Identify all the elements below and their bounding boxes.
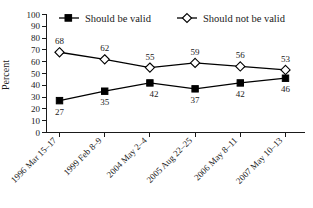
data-point-label: 46 [281,84,291,94]
y-tick-label: 70 [31,45,41,55]
chart-canvas: Percent 0 10 20 30 40 50 60 [0,0,313,208]
filled-square-icon [65,15,72,22]
data-point-label: 37 [191,95,201,105]
data-point-label: 55 [145,52,155,62]
series-data-labels-should-be-valid: 273542374246 [55,84,291,116]
series-markers-should-be-valid [56,75,288,104]
y-tick-label: 60 [31,57,41,67]
series-line-should-not-be-valid [60,52,286,70]
y-tick-label: 40 [31,80,41,90]
y-tick-label: 80 [31,33,41,43]
x-axis-label: 1996 Mar 15–17 [9,135,59,185]
data-point-marker [56,97,62,103]
series-line-should-be-valid [60,78,286,100]
data-point-marker [282,75,288,81]
data-point-label: 59 [191,47,201,57]
legend-item-should-be-valid[interactable]: Should be valid [59,13,152,24]
data-point-label: 53 [281,54,291,64]
y-tick-label: 30 [31,92,41,102]
open-diamond-icon [182,14,191,23]
data-point-marker [145,63,154,72]
data-point-label: 42 [236,89,245,99]
data-point-label: 27 [55,107,65,117]
legend-label-should-be-valid: Should be valid [85,13,152,24]
legend-item-should-not-be-valid[interactable]: Should not be valid [177,13,286,24]
x-axis-label: 2007 May 10–13 [234,135,285,186]
x-axis-label: 2004 May 2–4 [105,135,150,180]
data-point-marker [147,80,153,86]
series-markers-should-not-be-valid [55,48,290,75]
y-tick-marks [42,15,47,133]
x-axis-label: 2006 May 8–11 [192,135,239,182]
legend: Should be valid Should not be valid [59,13,286,24]
y-tick-label: 90 [31,21,41,31]
x-axis-labels: 1996 Mar 15–17 1999 Feb 8–9 2004 May 2–4… [9,135,285,186]
data-point-label: 68 [55,36,65,46]
data-point-label: 56 [236,50,246,60]
y-tick-label: 10 [31,116,41,126]
data-point-marker [281,65,290,74]
data-point-label: 42 [149,89,158,99]
y-tick-label: 100 [27,10,41,20]
y-tick-label: 20 [31,104,41,114]
x-tick-marks [60,133,286,138]
series-data-labels-should-not-be-valid: 686255595653 [55,36,291,64]
data-point-marker [236,62,245,71]
data-point-label: 62 [100,43,109,53]
y-axis-title: Percent [0,60,11,90]
line-chart: Percent 0 10 20 30 40 50 60 [0,0,313,208]
data-point-marker [100,55,109,64]
y-tick-label: 0 [36,128,41,138]
y-tick-labels: 0 10 20 30 40 50 60 70 80 90 100 [27,10,41,138]
y-tick-label: 50 [31,69,41,79]
x-axis-label: 1999 Feb 8–9 [62,135,104,177]
x-axis-label: 2005 Aug 22–25 [145,135,195,185]
legend-label-should-not-be-valid: Should not be valid [203,13,286,24]
data-point-marker [55,48,64,57]
data-point-label: 35 [100,97,110,107]
data-point-marker [237,80,243,86]
data-point-marker [191,58,200,67]
data-point-marker [192,86,198,92]
data-point-marker [102,88,108,94]
